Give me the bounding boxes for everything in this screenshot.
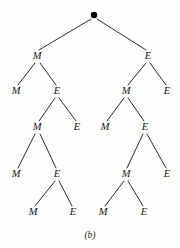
tree-node-label-m: M (32, 50, 43, 61)
tree-edge (150, 63, 166, 85)
tree-edge (128, 181, 143, 206)
tree-edge (105, 181, 124, 206)
tree-node-label-m: M (121, 85, 132, 96)
tree-node-label-e: E (141, 121, 149, 132)
tree-edge (128, 63, 146, 85)
tree-edge (59, 98, 76, 121)
tree-node-label-m: M (32, 121, 43, 132)
tree-edge (39, 98, 55, 121)
tree-edge (18, 63, 35, 85)
tree-node-label-m: M (28, 206, 39, 217)
tree-node-label-e: E (144, 50, 152, 61)
tree-edges-group (18, 19, 166, 206)
tree-node-label-m: M (121, 168, 132, 179)
tree-edge (59, 181, 72, 206)
tree-edge (128, 98, 144, 121)
tree-node-label-e: E (73, 121, 81, 132)
tree-node-label-e: E (69, 206, 77, 217)
tree-edge (147, 134, 166, 168)
tree-node-label-e: E (140, 206, 148, 217)
tree-edge (18, 134, 35, 168)
tree-edge (35, 181, 55, 206)
tree-node-label-m: M (11, 85, 22, 96)
tree-edge (40, 134, 56, 168)
binary-tree-diagram: MEMEMEMEMEMEMEMEME (b) (0, 0, 180, 248)
tree-nodes-group: MEMEMEMEMEMEMEMEME (11, 12, 171, 217)
tree-edge (97, 19, 146, 50)
tree-node-label-e: E (163, 85, 171, 96)
figure-caption: (b) (84, 230, 95, 241)
tree-node-label-m: M (100, 121, 111, 132)
tree-node-label-m: M (98, 206, 109, 217)
tree-root-node-dot (91, 12, 97, 18)
tree-edge (127, 134, 143, 168)
tree-node-label-m: M (11, 168, 22, 179)
tree-node-label-e: E (163, 168, 171, 179)
tree-edge (107, 98, 124, 121)
tree-edge (40, 63, 56, 85)
tree-node-label-e: E (53, 85, 61, 96)
figure-canvas: MEMEMEMEMEMEMEMEME (b) (0, 0, 180, 248)
tree-node-label-e: E (53, 168, 61, 179)
tree-edge (39, 19, 91, 50)
